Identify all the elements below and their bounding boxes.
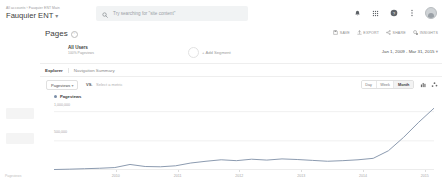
account-name[interactable]: Fauquier ENT ▾ [6,11,92,21]
granularity-day[interactable]: Day [362,81,377,88]
page-title-row: Pages i [45,29,78,39]
chart-plot-area[interactable] [54,100,434,170]
date-range-picker[interactable]: Jan 1, 2009 - Mar 31, 2015 ▾ [382,49,438,54]
x-axis-tick [178,170,179,172]
granularity-month[interactable]: Month [394,81,413,88]
left-sidebar: Pageviews [0,26,41,187]
x-axis-tick [301,170,302,172]
share-button[interactable]: SHARE [386,30,406,36]
add-segment-circle-icon [188,47,199,58]
report-content: Pages i SAVE EXPORT SHARE INSIGHTS [40,26,442,187]
insights-icon [413,30,419,37]
pageviews-chart: Pageviews 1,000,000 500,000 201020112012… [40,92,442,187]
sidebar-placeholder-block[interactable] [6,133,34,144]
save-icon [333,30,338,36]
x-axis-tick [116,170,117,172]
chevron-down-icon: ▾ [436,49,438,54]
chevron-down-icon: ▾ [55,13,58,19]
save-button[interactable]: SAVE [333,30,350,36]
x-axis-tick-label: 2010 [112,174,120,178]
date-range-label: Jan 1, 2009 - Mar 31, 2015 [382,49,435,54]
chart-legend: Pageviews [54,94,81,99]
tab-explorer[interactable]: Explorer [40,68,69,73]
apps-grid-icon[interactable] [371,9,380,18]
top-header: All accounts › Fauquier ENT Main Fauquie… [0,0,442,27]
account-selector[interactable]: All accounts › Fauquier ENT Main Fauquie… [0,6,92,21]
primary-metric-label: Pageviews [51,83,70,88]
x-axis-tick-label: 2014 [359,174,367,178]
x-axis-tick-label: 2012 [235,174,243,178]
info-icon[interactable]: i [71,31,78,38]
x-axis-tick-label: 2011 [174,174,182,178]
legend-marker [54,95,57,98]
x-axis-tick [363,170,364,172]
bar-chart-icon[interactable] [419,80,427,88]
tab-navigation-summary[interactable]: Navigation Summary [69,68,120,73]
scatter-chart-icon[interactable] [430,80,438,88]
user-avatar[interactable] [425,7,437,19]
segment-bar: All Users 100% Pageviews + Add Segment J… [40,43,442,64]
segment-all-users[interactable]: All Users 100% Pageviews [68,45,94,56]
sidebar-footer-label: Pageviews [5,174,21,178]
sidebar-placeholder-block[interactable] [6,108,34,119]
chevron-down-icon: ▾ [71,83,73,88]
x-axis-tick-label: 2015 [421,174,429,178]
metric-selector-row: Pageviews ▾ VS. Select a metric Day Week… [40,78,442,92]
notifications-icon[interactable] [353,9,362,18]
granularity-week[interactable]: Week [377,81,395,88]
export-button[interactable]: EXPORT [357,30,379,36]
header-icon-group: ? [353,0,437,26]
granularity-toggle: Day Week Month [361,80,414,89]
x-axis-tick [239,170,240,172]
analytics-app: All accounts › Fauquier ENT Main Fauquie… [0,0,442,187]
save-label: SAVE [340,31,350,35]
share-label: SHARE [393,31,406,35]
account-name-label: Fauquier ENT [6,11,53,20]
primary-metric-button[interactable]: Pageviews ▾ [46,80,78,90]
export-icon [357,30,362,36]
add-segment-button[interactable]: + Add Segment [188,47,231,58]
legend-label: Pageviews [60,94,81,99]
vs-label: VS. [86,82,92,87]
report-tabs: Explorer Navigation Summary [40,64,442,77]
search-input[interactable]: Try searching for "site content" [96,6,248,21]
report-actions: SAVE EXPORT SHARE INSIGHTS [333,30,438,37]
search-icon [102,4,108,22]
help-icon[interactable]: ? [389,9,398,18]
x-axis-tick [425,170,426,172]
insights-button[interactable]: INSIGHTS [413,30,438,37]
insights-label: INSIGHTS [420,31,438,35]
chart-type-group [419,80,438,88]
segment-subtitle: 100% Pageviews [68,51,94,56]
share-icon [386,30,391,36]
export-label: EXPORT [363,31,379,35]
x-axis-tick-label: 2013 [297,174,305,178]
secondary-metric-selector[interactable]: Select a metric [96,82,122,87]
search-placeholder: Try searching for "site content" [113,11,175,16]
more-vert-icon[interactable] [407,9,416,18]
x-axis: 201020112012201320142015 [54,172,434,182]
page-title: Pages [45,29,68,39]
add-segment-label: + Add Segment [202,50,231,55]
